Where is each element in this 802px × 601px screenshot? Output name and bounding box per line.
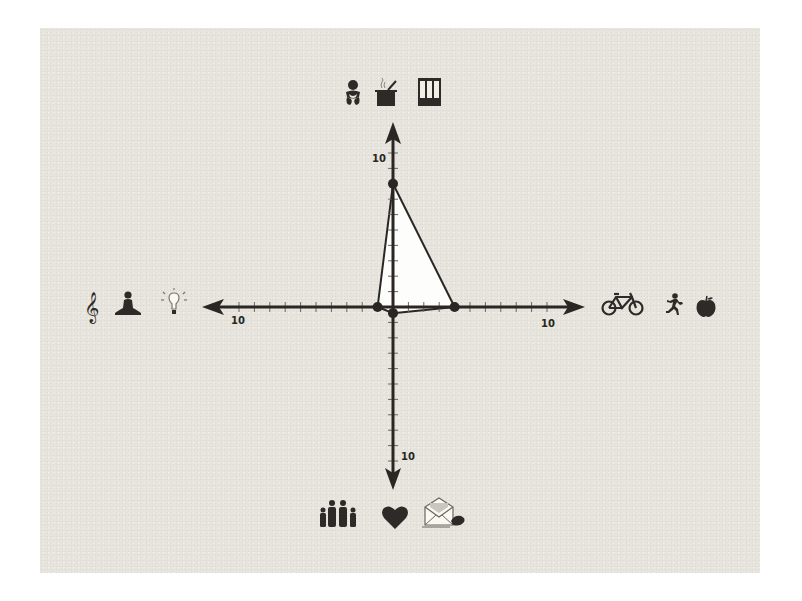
top-icon-group <box>346 78 441 106</box>
label-left-10: 10 <box>231 315 245 326</box>
baby-icon <box>346 80 360 105</box>
label-right-10: 10 <box>541 318 555 329</box>
point-left <box>373 302 383 312</box>
data-polygon <box>378 184 455 313</box>
point-up <box>388 179 398 189</box>
bicycle-icon <box>603 293 643 315</box>
point-right <box>450 302 460 312</box>
family-icon <box>320 500 356 527</box>
apple-icon <box>697 296 716 317</box>
right-icon-group <box>603 293 716 317</box>
label-up-10: 10 <box>372 153 386 164</box>
cooking-pot-icon <box>375 78 397 106</box>
meditation-icon <box>115 291 141 315</box>
left-icon-group: 𝄞 <box>84 288 187 324</box>
point-down <box>388 308 398 318</box>
bottom-icon-group <box>320 498 465 529</box>
heart-icon <box>382 506 408 529</box>
running-person-icon <box>666 293 683 315</box>
radar-chart: 10 10 10 10 𝄞 <box>0 0 802 601</box>
lightbulb-icon <box>161 288 187 314</box>
label-down-10: 10 <box>401 451 415 462</box>
binders-icon <box>418 78 441 106</box>
treble-clef-icon: 𝄞 <box>84 292 99 324</box>
envelope-icon <box>422 498 465 527</box>
